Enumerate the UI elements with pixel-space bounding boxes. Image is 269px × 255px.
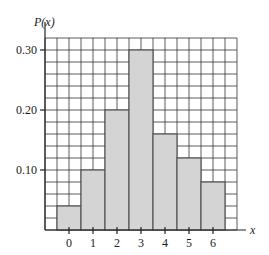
x-tick-label: 3 <box>138 236 144 250</box>
x-tick-label: 5 <box>186 236 192 250</box>
y-tick-label: 0.20 <box>16 103 37 117</box>
x-tick-label: 2 <box>114 236 120 250</box>
x-tick-label: 4 <box>162 236 168 250</box>
x-tick-label: 0 <box>66 236 72 250</box>
bar-0 <box>57 206 81 230</box>
bar-3 <box>129 50 153 230</box>
x-axis-label: x <box>249 223 256 237</box>
bars <box>57 50 225 230</box>
x-tick-label: 1 <box>90 236 96 250</box>
y-tick-label: 0.30 <box>16 43 37 57</box>
bar-5 <box>177 158 201 230</box>
x-tick-label: 6 <box>210 236 216 250</box>
y-tick-label: 0.10 <box>16 163 37 177</box>
bar-1 <box>81 170 105 230</box>
bar-4 <box>153 134 177 230</box>
y-axis-label: P(x) <box>33 15 55 29</box>
probability-histogram: 0.100.200.300123456 P(x) x <box>0 0 269 255</box>
bar-6 <box>201 182 225 230</box>
bar-2 <box>105 110 129 230</box>
